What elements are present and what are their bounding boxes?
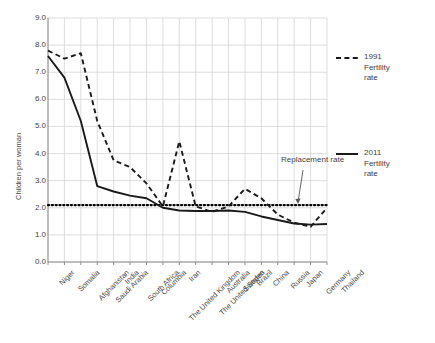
legend-label-line: 2011: [364, 148, 390, 159]
legend-swatch-2011: [336, 149, 358, 159]
legend-label-1991: 1991Fertilityrate: [364, 52, 390, 84]
x-tick-label: Iran: [187, 268, 203, 284]
fertility-rate-line-chart: Children per woman 0.01.02.03.04.05.06.0…: [0, 0, 435, 343]
replacement-rate-annotation: Replacement rate: [281, 155, 344, 164]
legend-label-line: Fertility: [364, 159, 390, 170]
x-tick-label: China: [271, 268, 291, 288]
legend-label-line: Fertility: [364, 63, 390, 74]
legend-label-line: rate: [364, 169, 390, 180]
legend-label-2011: 2011Fertilityrate: [364, 148, 390, 180]
x-tick-label: Somalia: [76, 268, 102, 294]
legend-label-line: 1991: [364, 52, 390, 63]
x-tick-label: Niger: [57, 268, 76, 287]
legend-swatch-1991: [336, 53, 358, 63]
legend-label-line: rate: [364, 73, 390, 84]
